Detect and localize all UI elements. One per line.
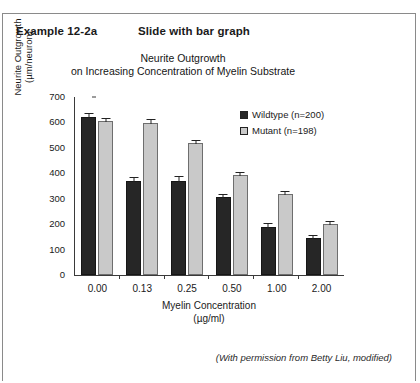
- y-tick-label: 300: [49, 194, 65, 204]
- bar-mutant: [278, 194, 293, 275]
- bar-wildtype: [261, 227, 276, 275]
- error-bar-cap: [146, 119, 155, 120]
- y-tick-label: 700: [49, 92, 65, 102]
- x-tick-label: 1.00: [254, 283, 299, 294]
- error-bar-cap: [326, 221, 335, 222]
- x-tick-label: 2.00: [299, 283, 344, 294]
- y-tick-label: 500: [49, 143, 65, 153]
- error-bar-cap: [281, 191, 290, 192]
- bar-group: [209, 97, 254, 275]
- chart-title-line-1: Neurite Outgrowth: [18, 52, 348, 65]
- chart-title: Neurite Outgrowth on Increasing Concentr…: [18, 52, 348, 78]
- bar-group: [254, 97, 299, 275]
- y-axis-ticks: 0100200300400500600700: [40, 97, 70, 275]
- slide-header: Example 12-2a Slide with bar graph: [16, 25, 406, 45]
- x-tick-mark: [298, 275, 299, 279]
- x-axis-title: Myelin Concentration (µg/ml): [74, 300, 344, 325]
- chart-title-line-2: on Increasing Concentration of Myelin Su…: [18, 65, 348, 78]
- plot-area: Neurite Outgrowth (µm/neuron) 0100200300…: [18, 97, 348, 297]
- bar-mutant: [188, 143, 203, 275]
- y-axis-title-line-2: (µm/neuron): [23, 0, 34, 127]
- x-tick-label: 0.50: [209, 283, 254, 294]
- slide-caption-label: Slide with bar graph: [138, 25, 250, 37]
- error-bar-cap: [264, 223, 273, 224]
- bar-wildtype: [216, 197, 231, 275]
- error-bar-cap: [309, 235, 318, 236]
- bar-wildtype: [81, 117, 96, 275]
- y-axis-title: Neurite Outgrowth (µm/neuron): [12, 0, 34, 127]
- x-axis-title-line-1: Myelin Concentration: [74, 300, 344, 313]
- y-tick-label: 600: [49, 118, 65, 128]
- bar-group: [299, 97, 344, 275]
- x-tick-mark: [208, 275, 209, 279]
- bar-mutant: [98, 121, 113, 275]
- x-axis-title-line-2: (µg/ml): [74, 313, 344, 326]
- y-tick-label: 100: [49, 245, 65, 255]
- y-axis-title-line-1: Neurite Outgrowth: [12, 0, 23, 127]
- error-bar-cap: [84, 113, 93, 114]
- x-tick-label: 0.13: [120, 283, 165, 294]
- error-bar-cap: [129, 177, 138, 178]
- x-tick-mark: [164, 275, 165, 279]
- source-credit: (With permission from Betty Liu, modifie…: [18, 352, 400, 363]
- bar-wildtype: [126, 181, 141, 275]
- bar-wildtype: [171, 181, 186, 275]
- bar-groups: [75, 97, 344, 275]
- y-tick-label: 400: [49, 169, 65, 179]
- error-bar-cap: [174, 176, 183, 177]
- figure: Neurite Outgrowth on Increasing Concentr…: [18, 52, 400, 352]
- x-axis-ticks: 0.000.130.250.501.002.00: [75, 283, 344, 294]
- bar-mutant: [323, 224, 338, 275]
- bar-wildtype: [306, 238, 321, 275]
- bar-group: [75, 97, 120, 275]
- x-tick-label: 0.00: [75, 283, 120, 294]
- error-bar-cap: [191, 140, 200, 141]
- error-bar-cap: [101, 118, 110, 119]
- bar-mutant: [143, 123, 158, 275]
- error-bar-cap: [219, 194, 228, 195]
- y-tick-label: 0: [60, 270, 65, 280]
- y-tick-label: 200: [49, 219, 65, 229]
- error-bar-cap: [236, 172, 245, 173]
- bar-group: [165, 97, 210, 275]
- x-tick-mark: [253, 275, 254, 279]
- example-label: Example 12-2a: [16, 25, 138, 37]
- bar-mutant: [233, 175, 248, 275]
- x-tick-label: 0.25: [165, 283, 210, 294]
- x-tick-mark: [119, 275, 120, 279]
- bar-group: [120, 97, 165, 275]
